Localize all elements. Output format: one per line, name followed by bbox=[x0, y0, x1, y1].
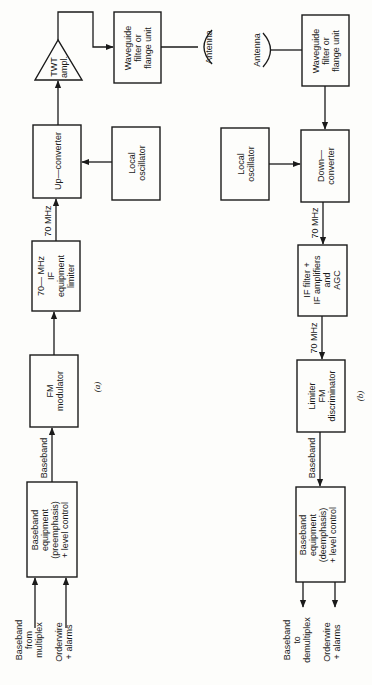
panel-a-transmitter: Baseband from multiplex Orderwire + alar… bbox=[14, 12, 214, 662]
svg-text:equipment: equipment bbox=[40, 508, 50, 551]
block-down-converter: Down— converter bbox=[301, 130, 349, 202]
svg-text:+ level control: + level control bbox=[328, 507, 338, 563]
svg-text:demultiplex: demultiplex bbox=[302, 617, 312, 663]
svg-text:discriminator: discriminator bbox=[327, 370, 337, 421]
label-70mhz-b2: 70 MHz bbox=[309, 322, 319, 354]
svg-text:+ level control: + level control bbox=[60, 502, 70, 558]
svg-text:oscillator: oscillator bbox=[137, 145, 147, 181]
svg-text:equipment: equipment bbox=[308, 513, 318, 556]
svg-text:converter: converter bbox=[326, 147, 336, 185]
block-twt-amplifier: TWT ampl. bbox=[35, 40, 82, 80]
caption-a: (a) bbox=[92, 382, 102, 393]
link-twt-to-waveguide bbox=[58, 12, 113, 47]
svg-text:+ alarms: + alarms bbox=[64, 624, 74, 659]
svg-text:(preemphasis): (preemphasis) bbox=[50, 501, 60, 559]
svg-text:flange unit: flange unit bbox=[331, 30, 341, 72]
label-baseband-a: Baseband bbox=[39, 438, 49, 479]
svg-text:Orderwire: Orderwire bbox=[54, 622, 64, 662]
block-if-equipment-limiter: 70— MHz IF equipment limiter bbox=[32, 241, 80, 311]
svg-text:filter or: filter or bbox=[321, 37, 331, 65]
block-baseband-equipment-deemphasis: Baseband equipment (deemphasis) + level … bbox=[296, 487, 345, 582]
svg-text:oscillator: oscillator bbox=[246, 146, 256, 182]
svg-text:(deemphasis): (deemphasis) bbox=[318, 508, 328, 563]
output-label-baseband-to-demultiplex: Baseband to demultiplex bbox=[282, 617, 312, 663]
svg-text:Baseband: Baseband bbox=[282, 620, 292, 661]
panel-b-receiver: Antenna Waveguide filter or flange unit … bbox=[221, 15, 365, 663]
label-antenna-a: Antenna bbox=[204, 30, 214, 64]
svg-text:to: to bbox=[292, 636, 302, 644]
block-if-filter-amplifiers-agc: IF filter + IF amplifiers and AGC bbox=[298, 245, 347, 316]
svg-text:from: from bbox=[24, 631, 34, 649]
label-70mhz-a: 70 MHz bbox=[43, 205, 53, 237]
svg-text:limiter: limiter bbox=[66, 264, 76, 288]
block-local-oscillator-b: Local oscillator bbox=[221, 128, 269, 200]
block-limiter-fm-discriminator: Limiter FM discriminator bbox=[297, 360, 345, 432]
svg-text:equipment: equipment bbox=[56, 254, 66, 297]
svg-text:IF filter +: IF filter + bbox=[302, 262, 312, 297]
block-fm-modulator: FM modulator bbox=[30, 355, 78, 427]
svg-text:IF: IF bbox=[46, 271, 56, 280]
svg-text:TWT: TWT bbox=[49, 57, 59, 77]
svg-text:modulator: modulator bbox=[55, 371, 65, 411]
block-waveguide-filter-b: Waveguide filter or flange unit bbox=[302, 15, 349, 86]
block-up-converter: Up—converter bbox=[33, 125, 81, 198]
svg-text:flange unit: flange unit bbox=[143, 27, 153, 69]
svg-text:Baseband: Baseband bbox=[30, 510, 40, 551]
svg-text:Up—converter: Up—converter bbox=[53, 132, 63, 190]
block-local-oscillator-a: Local oscillator bbox=[112, 127, 160, 200]
svg-text:AGC: AGC bbox=[332, 270, 342, 290]
svg-text:FM: FM bbox=[45, 385, 55, 398]
antenna-icon-b bbox=[263, 33, 271, 67]
svg-text:Local: Local bbox=[127, 152, 137, 174]
svg-text:and: and bbox=[322, 272, 332, 287]
svg-text:Baseband: Baseband bbox=[298, 515, 308, 556]
label-baseband-b: Baseband bbox=[307, 438, 317, 479]
block-waveguide-filter-a: Waveguide filter or flange unit bbox=[114, 12, 161, 83]
svg-text:Orderwire: Orderwire bbox=[322, 622, 332, 662]
svg-text:70— MHz: 70— MHz bbox=[36, 256, 46, 297]
svg-text:FM: FM bbox=[317, 390, 327, 403]
svg-text:IF amplifiers: IF amplifiers bbox=[312, 255, 322, 305]
svg-text:filter or: filter or bbox=[133, 34, 143, 62]
caption-b: (b) bbox=[355, 391, 365, 402]
svg-text:Waveguide: Waveguide bbox=[311, 29, 321, 74]
block-diagram: Baseband from multiplex Orderwire + alar… bbox=[0, 0, 372, 685]
input-label-baseband-from-multiplex: Baseband from multiplex bbox=[14, 620, 44, 661]
label-70mhz-b1: 70 MHz bbox=[310, 207, 320, 239]
label-antenna-b: Antenna bbox=[252, 33, 262, 67]
block-baseband-equipment-preemphasis: Baseband equipment (preemphasis) + level… bbox=[27, 482, 77, 577]
svg-text:+ alarms: + alarms bbox=[332, 624, 342, 659]
svg-text:Waveguide: Waveguide bbox=[123, 26, 133, 71]
svg-text:Down—: Down— bbox=[316, 150, 326, 182]
svg-text:Baseband: Baseband bbox=[14, 620, 24, 661]
input-label-orderwire-alarms: Orderwire + alarms bbox=[54, 622, 74, 662]
svg-text:multiplex: multiplex bbox=[34, 622, 44, 658]
output-label-orderwire-alarms: Orderwire + alarms bbox=[322, 622, 342, 662]
svg-text:ampl.: ampl. bbox=[59, 56, 69, 78]
svg-text:Limiter: Limiter bbox=[307, 382, 317, 409]
svg-text:Local: Local bbox=[236, 153, 246, 175]
